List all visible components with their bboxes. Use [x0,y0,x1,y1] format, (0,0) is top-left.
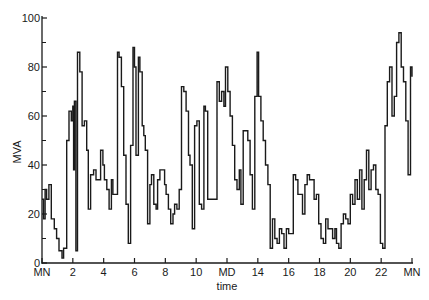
y-axis-label: MVA [11,140,23,164]
y-tick-label: 60 [28,110,40,122]
x-tick-label: MN [403,266,420,278]
y-tick-label: 40 [28,159,40,171]
y-tick-label: 20 [28,208,40,220]
x-tick-label: 18 [313,266,325,278]
plot-area [42,33,412,258]
x-axis-label: time [217,280,238,292]
y-tick-label: 80 [28,61,40,73]
x-tick-label: 10 [190,266,202,278]
x-ticks: MN246810MD1416182022MN [33,258,420,278]
x-tick-label: 6 [131,266,137,278]
x-tick-label: MN [33,266,50,278]
x-tick-label: 4 [101,266,107,278]
x-tick-label: 22 [375,266,387,278]
series-line-load [42,33,412,258]
x-tick-label: 2 [70,266,76,278]
y-ticks: 020406080100 [22,12,47,269]
x-tick-label: 14 [252,266,264,278]
x-tick-label: MD [218,266,235,278]
axes: 020406080100 MN246810MD1416182022MN [22,12,421,278]
load-chart: 020406080100 MN246810MD1416182022MN MVA … [0,0,429,300]
x-tick-label: 8 [162,266,168,278]
x-tick-label: 16 [283,266,295,278]
chart-container: 020406080100 MN246810MD1416182022MN MVA … [0,0,429,300]
x-tick-label: 20 [344,266,356,278]
y-tick-label: 100 [22,12,40,24]
